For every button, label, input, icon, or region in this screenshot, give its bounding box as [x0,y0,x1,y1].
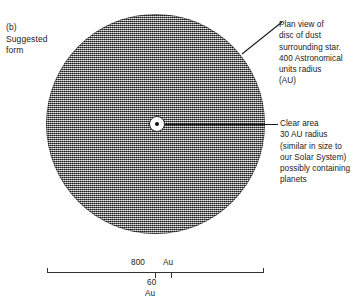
scale-label-au-bottom: Au [145,289,155,300]
clear-area-leader-line [165,124,278,125]
central-star-dot [155,122,159,126]
annotation-plan-view: Plan view of disc of dust surrounding st… [279,19,360,87]
scale-bar [47,272,264,273]
scale-tick-right [263,268,264,273]
scale-label-800: 800 [131,258,145,269]
scale-label-au-top: Au [163,258,173,269]
annotation-clear-area: Clear area 30 AU radius (similar in size… [280,118,360,186]
plan-view-leader-line [240,18,284,56]
scale-tick-left [47,268,48,273]
scale-label-60: 60 [147,278,156,289]
figure-caption: (b) Suggested form [6,22,48,57]
figure-panel-b: (b) Suggested form Plan view of disc of … [0,0,360,306]
scale-tick-60 [171,273,172,278]
